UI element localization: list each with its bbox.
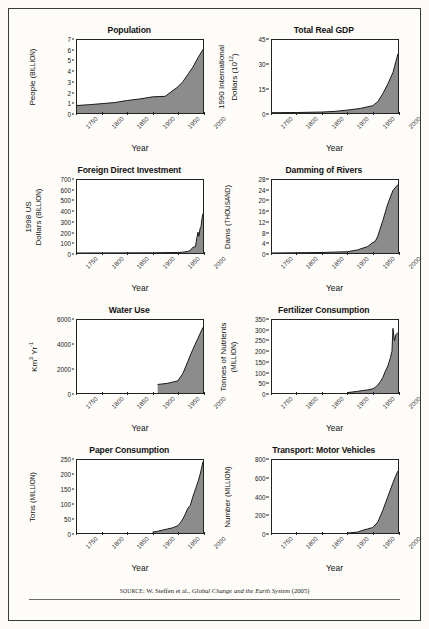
y-tick-label: 400 xyxy=(60,208,71,215)
x-tick-label: 1800 xyxy=(110,535,125,550)
y-tick-label: 700 xyxy=(60,176,71,183)
chart-title: Fertilizer Consumption xyxy=(216,305,411,315)
y-tick-label: 3 xyxy=(67,78,71,85)
x-tick-label: 1900 xyxy=(161,255,176,270)
y-tick-label: 500 xyxy=(60,197,71,204)
x-tick-mark xyxy=(347,532,348,535)
y-axis-ticks: 0200400600800 xyxy=(234,459,269,534)
x-tick-mark xyxy=(178,392,179,395)
x-tick-label: 1950 xyxy=(186,115,201,130)
y-tick-label: 24 xyxy=(258,186,265,193)
source-authors: W. Steffen et al., xyxy=(145,587,192,594)
x-tick-label: 1800 xyxy=(304,115,319,130)
x-axis-label: Year xyxy=(271,563,399,573)
plot-area xyxy=(271,179,399,254)
y-tick-label: 15 xyxy=(258,86,265,93)
x-tick-label: 1750 xyxy=(279,395,294,410)
series-line xyxy=(77,213,203,253)
y-tick-mark xyxy=(72,81,75,82)
chart-panel: Paper ConsumptionTons (MILLION)050100150… xyxy=(21,443,216,583)
x-tick-label: 1750 xyxy=(84,535,99,550)
y-tick-mark xyxy=(266,179,269,180)
area-fill xyxy=(272,184,398,253)
y-axis-ticks: 050100150200250 xyxy=(39,459,74,534)
y-tick-label: 6000 xyxy=(57,316,71,323)
chart-title: Total Real GDP xyxy=(216,25,411,35)
y-tick-mark xyxy=(72,459,75,460)
y-axis-ticks: 01234567 xyxy=(39,39,74,114)
x-tick-label: 1850 xyxy=(135,395,150,410)
y-tick-mark xyxy=(266,243,269,244)
x-tick-label: 1750 xyxy=(279,535,294,550)
x-tick-label: 1850 xyxy=(330,395,345,410)
y-tick-mark xyxy=(266,496,269,497)
plot-area xyxy=(76,459,204,534)
axis-box xyxy=(271,179,399,254)
chart-panel: Fertilizer ConsumptionTonnes of Nutrient… xyxy=(216,303,411,443)
x-tick-mark xyxy=(127,112,128,115)
x-tick-label: 1850 xyxy=(135,535,150,550)
x-tick-label: 1900 xyxy=(355,535,370,550)
chart-panel: Foreign Direct Investment1998 USDollars … xyxy=(21,163,216,303)
y-axis-label: People (BILLION) xyxy=(28,48,38,105)
y-tick-mark xyxy=(72,60,75,61)
chart-title: Transport: Motor Vehicles xyxy=(216,445,411,455)
x-axis-label: Year xyxy=(271,143,399,153)
x-tick-mark xyxy=(373,392,374,395)
source-year: (2005) xyxy=(290,587,309,594)
x-tick-label: 1950 xyxy=(381,395,396,410)
y-tick-label: 0 xyxy=(262,531,266,538)
y-tick-label: 0 xyxy=(67,251,71,258)
x-tick-label: 1900 xyxy=(355,395,370,410)
y-tick-mark xyxy=(72,243,75,244)
x-axis-ticks: 175018001850190019502000 xyxy=(76,115,204,141)
chart-title: Foreign Direct Investment xyxy=(21,165,216,175)
plot-area xyxy=(271,459,399,534)
y-tick-mark xyxy=(266,394,269,395)
figure-page: PopulationPeople (BILLION)01234567175018… xyxy=(0,0,429,629)
y-tick-mark xyxy=(72,519,75,520)
y-tick-label: 6 xyxy=(67,46,71,53)
y-tick-mark xyxy=(266,319,269,320)
x-tick-label: 1900 xyxy=(161,395,176,410)
chart-series xyxy=(77,40,203,113)
x-tick-label: 1950 xyxy=(186,395,201,410)
x-axis-label: Year xyxy=(76,423,204,433)
x-tick-mark xyxy=(76,112,77,115)
y-tick-mark xyxy=(72,319,75,320)
y-tick-label: 5 xyxy=(67,57,71,64)
y-tick-label: 100 xyxy=(255,369,266,376)
y-axis-label: Tons (MILLION) xyxy=(28,471,38,521)
y-tick-label: 300 xyxy=(60,218,71,225)
y-tick-label: 4 xyxy=(67,68,71,75)
y-tick-label: 1 xyxy=(67,100,71,107)
area-fill xyxy=(153,461,203,533)
y-tick-label: 50 xyxy=(64,516,71,523)
x-axis-label: Year xyxy=(76,563,204,573)
x-axis-label: Year xyxy=(76,143,204,153)
x-tick-label: 1800 xyxy=(110,255,125,270)
y-tick-mark xyxy=(72,369,75,370)
y-tick-mark xyxy=(72,232,75,233)
y-tick-label: 0 xyxy=(67,111,71,118)
x-tick-mark xyxy=(127,252,128,255)
source-prefix: SOURCE: xyxy=(120,588,145,594)
x-tick-mark xyxy=(178,532,179,535)
x-tick-label: 2000 xyxy=(407,395,422,410)
chart-panel: PopulationPeople (BILLION)01234567175018… xyxy=(21,23,216,163)
x-axis-ticks: 175018001850190019502000 xyxy=(271,535,399,561)
x-tick-label: 1900 xyxy=(355,255,370,270)
y-tick-mark xyxy=(266,39,269,40)
x-tick-mark xyxy=(204,392,205,395)
x-tick-label: 1950 xyxy=(381,255,396,270)
bottom-rule xyxy=(29,599,400,600)
x-tick-mark xyxy=(399,112,400,115)
y-tick-mark xyxy=(72,92,75,93)
x-tick-label: 1950 xyxy=(381,115,396,130)
y-tick-mark xyxy=(72,254,75,255)
y-tick-mark xyxy=(266,232,269,233)
x-tick-label: 1800 xyxy=(304,535,319,550)
y-axis-ticks: 0200040006000 xyxy=(39,319,74,394)
y-tick-label: 100 xyxy=(60,240,71,247)
x-tick-label: 1750 xyxy=(84,255,99,270)
